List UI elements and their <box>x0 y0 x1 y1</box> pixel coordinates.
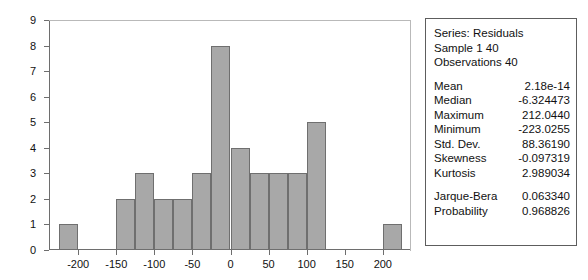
y-axis-tick-label: 5 <box>10 117 36 128</box>
statistic-row: Std. Dev.88.36190 <box>434 137 576 152</box>
statistic-row: Mean2.18e-14 <box>434 79 576 94</box>
y-axis-tick <box>44 224 49 225</box>
x-axis-tick <box>383 250 384 255</box>
statistics-rows: Mean2.18e-14Median-6.324473Maximum212.04… <box>434 79 576 181</box>
statistic-value: 88.36190 <box>506 137 570 152</box>
y-axis-tick <box>44 20 49 21</box>
x-axis-tick <box>307 250 308 255</box>
histogram-bar <box>288 173 307 250</box>
statistic-label: Minimum <box>434 122 506 137</box>
histogram-bar <box>59 224 78 250</box>
statistic-row: Kurtosis2.989034 <box>434 166 576 181</box>
histogram-stats-figure: 0123456789 -200-150-100-50050100150200 S… <box>0 0 588 280</box>
statistics-spacer <box>434 70 576 79</box>
x-axis-tick-label: 200 <box>361 258 405 270</box>
statistics-header: Series: ResidualsSample 1 40Observations… <box>434 26 576 70</box>
y-axis-tick <box>44 250 49 251</box>
statistics-header-line: Sample 1 40 <box>434 41 576 56</box>
y-axis-tick-label: 0 <box>10 245 36 256</box>
y-axis-tick <box>44 71 49 72</box>
histogram-bar <box>269 173 288 250</box>
histogram-bar <box>116 199 135 250</box>
statistic-row: Maximum212.0440 <box>434 108 576 123</box>
y-axis-tick-label: 2 <box>10 194 36 205</box>
statistic-value: 0.968826 <box>506 204 570 219</box>
histogram-bar <box>231 148 250 250</box>
statistic-value: 2.989034 <box>506 166 570 181</box>
statistic-value: 2.18e-14 <box>506 79 570 94</box>
statistic-test-row: Probability0.968826 <box>434 204 576 219</box>
histogram-chart: 0123456789 -200-150-100-50050100150200 <box>0 0 420 280</box>
statistic-row: Minimum-223.0255 <box>434 122 576 137</box>
y-axis-tick-label: 1 <box>10 219 36 230</box>
y-axis-tick-label: 9 <box>10 15 36 26</box>
statistic-test-row: Jarque-Bera0.063340 <box>434 189 576 204</box>
statistic-label: Jarque-Bera <box>434 189 506 204</box>
statistic-label: Median <box>434 93 506 108</box>
statistics-test-rows: Jarque-Bera0.063340Probability0.968826 <box>434 189 576 218</box>
statistic-value: -0.097319 <box>506 151 570 166</box>
y-axis-tick-label: 4 <box>10 143 36 154</box>
histogram-bar <box>173 199 192 250</box>
statistic-value: -223.0255 <box>506 122 570 137</box>
statistics-header-line: Observations 40 <box>434 55 576 70</box>
statistics-panel: Series: ResidualsSample 1 40Observations… <box>425 18 577 246</box>
statistics-spacer-2 <box>434 180 576 189</box>
histogram-bar <box>192 173 211 250</box>
histogram-bar <box>383 224 402 250</box>
histogram-bar <box>307 122 326 250</box>
x-axis-tick <box>269 250 270 255</box>
histogram-bar <box>250 173 269 250</box>
y-axis-tick-label: 3 <box>10 168 36 179</box>
y-axis-tick <box>44 173 49 174</box>
histogram-bars <box>50 20 411 250</box>
statistic-label: Kurtosis <box>434 166 506 181</box>
statistic-value: -6.324473 <box>506 93 570 108</box>
y-axis-tick <box>44 199 49 200</box>
y-axis-tick-label: 6 <box>10 92 36 103</box>
statistic-label: Probability <box>434 204 506 219</box>
y-axis-tick <box>44 46 49 47</box>
statistic-label: Maximum <box>434 108 506 123</box>
x-axis-tick <box>78 250 79 255</box>
histogram-bar <box>154 199 173 250</box>
x-axis-tick <box>116 250 117 255</box>
histogram-bar <box>135 173 154 250</box>
y-axis-tick-label: 8 <box>10 41 36 52</box>
x-axis-tick <box>345 250 346 255</box>
statistic-row: Skewness-0.097319 <box>434 151 576 166</box>
y-axis-tick <box>44 97 49 98</box>
x-axis-tick <box>154 250 155 255</box>
statistic-row: Median-6.324473 <box>434 93 576 108</box>
statistic-value: 0.063340 <box>506 189 570 204</box>
y-axis-tick <box>44 148 49 149</box>
y-axis-tick <box>44 122 49 123</box>
statistics-header-line: Series: Residuals <box>434 26 576 41</box>
statistic-label: Skewness <box>434 151 506 166</box>
x-axis-tick <box>192 250 193 255</box>
x-axis-tick <box>231 250 232 255</box>
statistic-label: Mean <box>434 79 506 94</box>
histogram-bar <box>211 46 230 250</box>
y-axis-tick-label: 7 <box>10 66 36 77</box>
statistic-label: Std. Dev. <box>434 137 506 152</box>
statistic-value: 212.0440 <box>506 108 570 123</box>
